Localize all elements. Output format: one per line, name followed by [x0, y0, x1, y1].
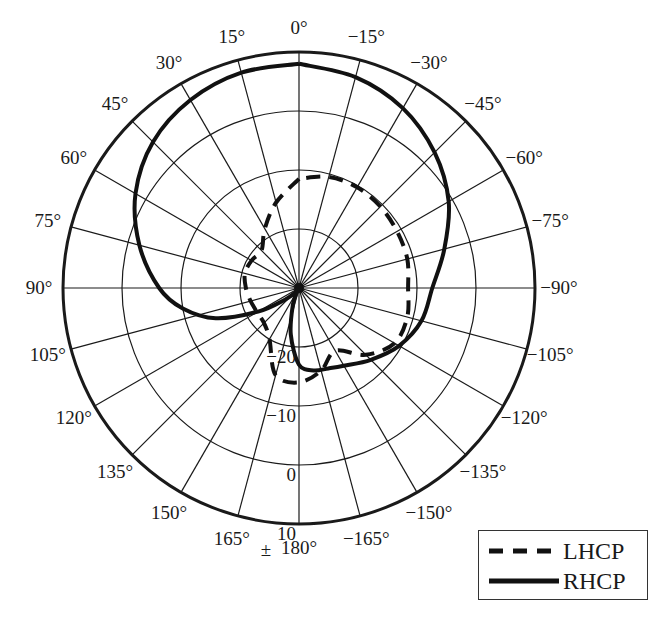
polar-plot: 0°15°30°45°60°75°90°105°120°135°150°165°… [0, 0, 659, 620]
solid-line-icon [487, 576, 559, 586]
rhcp-curve [135, 64, 450, 371]
angle-tick-label: −165° [343, 528, 390, 549]
angle-tick-label: 30° [156, 52, 183, 73]
grid-spoke [181, 84, 299, 288]
legend: LHCP RHCP [478, 530, 648, 600]
angle-tick-label: −30° [410, 52, 447, 73]
grid-spoke [95, 170, 299, 288]
angle-tick-label: 165° [214, 528, 250, 549]
angle-tick-label: 45° [102, 93, 129, 114]
angle-tick-label: −135° [459, 461, 506, 482]
grid-spoke [71, 227, 299, 288]
angle-tick-label: 75° [35, 210, 62, 231]
angle-tick-label: −45° [464, 93, 501, 114]
grid-spoke [299, 60, 360, 288]
grid-spoke [181, 288, 299, 492]
grid-spoke [299, 227, 527, 288]
angle-tick-label: 60° [61, 147, 88, 168]
angle-tick-label: 105° [30, 344, 66, 365]
angle-tick-label: 15° [218, 26, 245, 47]
legend-item-lhcp: LHCP [487, 537, 624, 565]
grid-spoke [71, 288, 299, 349]
angle-tick-label: 0° [290, 17, 307, 38]
angle-tick-label: −60° [506, 147, 543, 168]
angle-tick-label: −105° [527, 344, 574, 365]
grid-spoke [299, 288, 527, 349]
angle-tick-label: −120° [501, 407, 548, 428]
grid-spoke [299, 288, 360, 516]
angle-tick-label: −90° [540, 277, 577, 298]
angle-tick-label: 90° [26, 277, 53, 298]
dashed-line-icon [487, 546, 559, 556]
legend-label-lhcp: LHCP [563, 539, 624, 563]
angle-tick-label: 120° [56, 407, 92, 428]
radial-tick-label: −20 [266, 346, 296, 367]
angle-tick-label: −75° [531, 210, 568, 231]
angle-tick-label: −150° [406, 502, 453, 523]
grid-spoke [238, 60, 299, 288]
grid-spoke [299, 288, 417, 492]
legend-item-rhcp: RHCP [487, 567, 626, 595]
grid-spoke [299, 288, 466, 455]
angle-tick-label: 135° [97, 461, 133, 482]
polar-grid [63, 52, 535, 524]
radial-tick-label: 10 [277, 523, 296, 544]
radial-tick-label: −10 [266, 405, 296, 426]
angle-tick-label: −15° [348, 26, 385, 47]
angle-tick-label: 150° [151, 502, 187, 523]
plus-minus-label: ± [261, 539, 271, 560]
radial-tick-label: 0 [287, 464, 297, 485]
legend-label-rhcp: RHCP [563, 569, 626, 593]
grid-spoke [299, 288, 503, 406]
grid-spoke [299, 170, 503, 288]
